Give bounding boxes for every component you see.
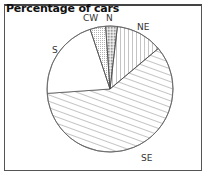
- label-se: SE: [141, 153, 153, 163]
- label-ne: NE: [137, 22, 150, 32]
- label-s: S: [52, 45, 58, 55]
- pie-slices: [47, 26, 173, 152]
- label-n: N: [106, 13, 113, 23]
- label-cw: CW: [83, 13, 98, 23]
- pie-chart: N NE SE S CW: [0, 0, 206, 177]
